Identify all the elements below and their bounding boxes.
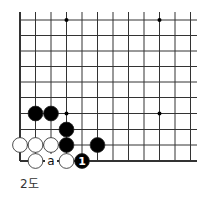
white-stone [13, 138, 28, 153]
white-stone [28, 138, 43, 153]
black-stone [28, 106, 43, 121]
black-stone [59, 122, 74, 137]
point-label-a: a [47, 154, 54, 168]
star-point [65, 18, 69, 22]
white-stone [44, 138, 59, 153]
white-stone [28, 154, 43, 169]
black-stone [90, 138, 105, 153]
black-stone [59, 138, 74, 153]
star-point [158, 18, 162, 22]
go-board-diagram: a1 [0, 0, 207, 198]
black-stone [44, 106, 59, 121]
diagram-caption: 2도 [20, 174, 39, 191]
white-stone [59, 154, 74, 169]
move-number-label: 1 [78, 155, 86, 168]
star-point [158, 112, 162, 116]
star-point [65, 112, 69, 116]
